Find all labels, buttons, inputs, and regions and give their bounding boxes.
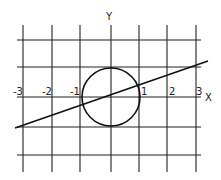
x-tick-label: -3 <box>13 86 23 97</box>
x-axis-label: X <box>205 92 212 103</box>
x-tick-label: -2 <box>42 86 52 97</box>
x-tick-label: -1 <box>70 86 80 97</box>
grid-vertical-lines <box>23 25 196 172</box>
graph-diagram: Y X -3 -2 -1 1 2 3 <box>0 0 221 180</box>
coordinate-plane: Y X -3 -2 -1 1 2 3 <box>0 0 221 180</box>
x-tick-label: 3 <box>196 86 202 97</box>
grid-horizontal-lines <box>17 40 201 155</box>
x-tick-label: 2 <box>169 86 175 97</box>
x-tick-label: 1 <box>141 86 147 97</box>
y-axis-label: Y <box>105 11 113 22</box>
